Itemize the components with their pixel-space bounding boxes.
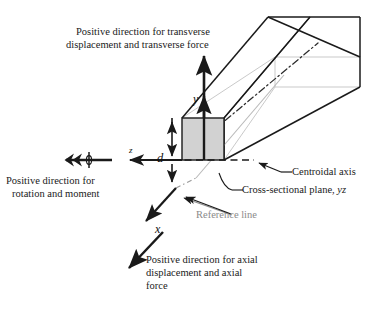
rotation-annotation-line2: rotation and moment	[12, 188, 99, 201]
x-axis-arrow	[146, 188, 176, 221]
x-axis-label: x	[155, 222, 160, 237]
y-axis-label: y	[193, 92, 198, 107]
moment-double-arrow	[65, 152, 113, 168]
reference-line-label: Reference line	[196, 209, 257, 222]
rotation-annotation-line1: Positive direction for	[6, 175, 95, 188]
beam-inner-edge	[224, 17, 310, 118]
axial-annotation-line3: force	[146, 280, 168, 293]
axial-annotation-line1: Positive direction for axial	[146, 254, 258, 267]
cross-section-plane-label: Cross-sectional plane, yz	[242, 184, 346, 197]
depth-dimension-label: d	[157, 151, 163, 166]
centroidal-axis-leader	[259, 163, 292, 172]
transverse-annotation-line1: Positive direction for transverse	[76, 26, 210, 39]
axial-annotation-line2: displacement and axial	[146, 267, 242, 280]
transverse-annotation-line2: displacement and transverse force	[66, 39, 209, 52]
figure-canvas: Positive direction for transverse displa…	[0, 0, 378, 310]
z-axis-label: z	[129, 145, 133, 155]
cross-section-leader	[219, 173, 243, 190]
cross-section-plane-text: Cross-sectional plane,	[242, 184, 337, 195]
cross-section-plane-axes: yz	[337, 184, 346, 195]
reference-line-mark	[176, 178, 196, 188]
centroidal-axis-label: Centroidal axis	[292, 166, 356, 179]
